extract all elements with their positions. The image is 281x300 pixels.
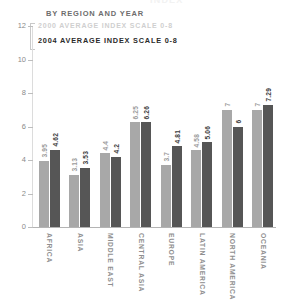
bar-group: 77.29 xyxy=(252,26,273,227)
category-label-text: NORTH AMERICA xyxy=(229,233,236,300)
bar: 3.13 xyxy=(69,175,79,227)
y-axis-labels: 024681012 xyxy=(0,26,26,228)
bar-value-label: 4.4 xyxy=(103,141,110,151)
category-label: CENTRAL ASIA xyxy=(130,233,151,295)
y-axis-tick-label: 8 xyxy=(22,89,26,97)
category-label: OCEANIA xyxy=(252,233,273,295)
bar: 6 xyxy=(233,127,243,228)
y-axis-tick-label: 12 xyxy=(18,22,26,30)
category-label: LATIN AMERICA xyxy=(191,233,212,295)
category-label: MIDDLE EAST xyxy=(100,233,121,295)
category-label: EUROPE xyxy=(161,233,182,295)
bar-value-label: 4.81 xyxy=(175,130,182,144)
x-axis-category-labels: AFRICAASIAMIDDLE EASTCENTRAL ASIAEUROPEL… xyxy=(32,233,276,297)
bar: 4.81 xyxy=(172,146,182,227)
bar-value-label: 3.13 xyxy=(72,158,79,172)
bar-group: 4.585.06 xyxy=(191,26,212,227)
bar-value-label: 7 xyxy=(255,103,262,107)
category-label: AFRICA xyxy=(39,233,60,295)
bar: 4.2 xyxy=(111,157,121,227)
bar-group: 4.44.2 xyxy=(100,26,121,227)
bar-value-label: 6.26 xyxy=(144,106,151,120)
bar-value-label: 6.25 xyxy=(133,106,140,120)
category-label-text: LATIN AMERICA xyxy=(199,233,206,296)
chart-subtitle: BY REGION AND YEAR xyxy=(46,9,144,18)
bar-group: 6.256.26 xyxy=(130,26,151,227)
bar: 3.95 xyxy=(39,161,49,227)
category-label-text: MIDDLE EAST xyxy=(107,233,114,287)
bar: 6.26 xyxy=(141,122,151,227)
bar-value-label: 4.62 xyxy=(53,133,60,147)
bar: 7.29 xyxy=(263,105,273,227)
category-label-text: CENTRAL ASIA xyxy=(138,233,145,292)
bar-value-label: 5.06 xyxy=(205,126,212,140)
y-axis-tick-label: 10 xyxy=(18,56,26,64)
bar-group: 3.954.62 xyxy=(39,26,60,227)
bar-value-label: 4.2 xyxy=(114,144,121,154)
bar: 6.25 xyxy=(130,122,140,227)
category-label-text: EUROPE xyxy=(168,233,175,266)
category-label: ASIA xyxy=(69,233,90,295)
bar: 7 xyxy=(252,110,262,227)
bar-value-label: 3.95 xyxy=(42,144,49,158)
bar: 5.06 xyxy=(202,142,212,227)
y-axis-tick xyxy=(28,227,33,228)
x-axis-baseline xyxy=(32,227,276,228)
y-axis-tick-label: 0 xyxy=(22,223,26,231)
cropped-title-text: INDEX xyxy=(150,0,281,5)
y-axis-tick-label: 4 xyxy=(22,156,26,164)
bar-value-label: 7 xyxy=(225,103,232,107)
bar-value-label: 7.29 xyxy=(266,88,273,102)
bar-group: 3.133.53 xyxy=(69,26,90,227)
bar-value-label: 4.58 xyxy=(194,134,201,148)
bar: 3.7 xyxy=(161,165,171,227)
bar-value-label: 3.7 xyxy=(164,152,171,162)
bar-groups: 3.954.623.133.534.44.26.256.263.74.814.5… xyxy=(32,26,276,227)
bar: 3.53 xyxy=(80,168,90,227)
bar: 4.62 xyxy=(50,150,60,227)
bar-value-label: 6 xyxy=(236,120,243,124)
y-axis-tick-label: 6 xyxy=(22,123,26,131)
bar: 4.58 xyxy=(191,150,201,227)
category-label-text: OCEANIA xyxy=(260,233,267,270)
cropped-title-strip: INDEX xyxy=(150,0,281,7)
y-axis-tick-label: 2 xyxy=(22,190,26,198)
category-label-text: AFRICA xyxy=(46,233,53,263)
category-label-text: ASIA xyxy=(77,233,84,252)
bar-group: 76 xyxy=(222,26,243,227)
plot-area: 3.954.623.133.534.44.26.256.263.74.814.5… xyxy=(32,26,276,228)
bar-value-label: 3.53 xyxy=(83,151,90,165)
bar: 4.4 xyxy=(100,153,110,227)
bar-group: 3.74.81 xyxy=(161,26,182,227)
category-label: NORTH AMERICA xyxy=(222,233,243,295)
bar: 7 xyxy=(222,110,232,227)
